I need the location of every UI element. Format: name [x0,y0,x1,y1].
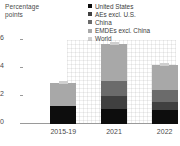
legend-swatch-icon [88,12,92,16]
y-tick-mark [20,123,23,124]
y-tick: 6 [0,39,24,40]
legend-item[interactable]: United States [88,2,150,10]
bar-group[interactable] [152,65,178,124]
bar-segment [101,96,127,109]
legend-swatch-icon [88,29,92,33]
y-tick-label: 2 [0,90,4,97]
world-marker-icon [110,42,119,45]
plot-area: 0246 2015-1920212022 [24,40,176,124]
bar-segment [50,106,76,124]
y-tick-mark [20,95,23,96]
y-tick-label: 0 [0,118,4,125]
y-tick: 4 [0,67,24,68]
y-tick: 0 [0,123,24,124]
bar-segment [101,109,127,124]
bar-group[interactable] [101,44,127,124]
y-axis-title: Percentage points [5,3,39,18]
world-marker-icon [160,63,169,66]
legend-item[interactable]: EMDEs excl. China [88,27,150,35]
y-tick-mark [20,39,23,40]
bar-group[interactable] [50,83,76,124]
bar-segment [152,110,178,124]
bar-series-container [24,40,176,124]
legend-item[interactable]: China [88,18,150,26]
bar-segment [101,44,127,80]
y-tick-label: 4 [0,62,4,69]
legend-item-label: EMDEs excl. China [95,27,150,34]
bar-segment [50,83,76,105]
bar-segment [152,102,178,110]
world-marker-icon [59,81,68,84]
x-axis-label: 2022 [135,128,180,135]
legend-item-label: AEs excl. U.S. [95,11,136,18]
chart-legend: United StatesAEs excl. U.S.ChinaEMDEs ex… [88,2,150,43]
legend-item-label: United States [95,3,133,10]
bar-segment [152,90,178,101]
bar-segment [152,65,178,90]
y-tick-mark [20,67,23,68]
legend-item[interactable]: AEs excl. U.S. [88,10,150,18]
y-tick-label: 6 [0,34,4,41]
legend-swatch-icon [88,4,92,8]
bar-segment [101,81,127,96]
y-tick: 2 [0,95,24,96]
stacked-bar-chart: Percentage points United StatesAEs excl.… [0,0,180,146]
legend-item-label: China [95,19,112,26]
legend-swatch-icon [88,20,92,24]
